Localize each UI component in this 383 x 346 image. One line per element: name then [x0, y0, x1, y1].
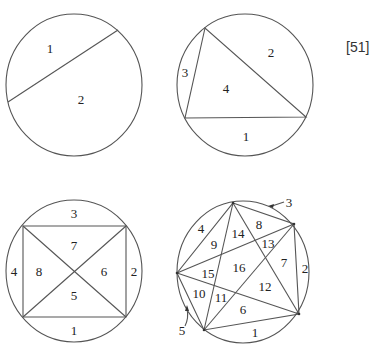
chord: [8, 30, 118, 102]
vertex-dot: [298, 313, 301, 316]
region-label: 4: [11, 264, 18, 279]
region-label: 5: [179, 323, 186, 338]
figure-three-points: 2341: [177, 14, 313, 156]
region-label: 1: [71, 323, 78, 338]
vertex-dot: [176, 272, 179, 275]
region-label: 14: [232, 226, 246, 241]
circle: [6, 14, 142, 156]
vertex-dot: [293, 223, 296, 226]
region-label: 16: [233, 260, 247, 275]
region-label: 12: [259, 279, 272, 294]
region-label: 1: [47, 41, 54, 56]
region-label: 8: [256, 217, 263, 232]
region-label: 1: [252, 325, 259, 340]
reference-number: [51]: [346, 39, 369, 55]
region-label: 4: [223, 81, 230, 96]
region-label: 7: [71, 238, 78, 253]
region-label: 3: [286, 195, 293, 210]
region-label: 6: [101, 264, 108, 279]
region-label: 2: [78, 92, 85, 107]
vertex-dot: [203, 329, 206, 332]
vertex-dot: [232, 202, 235, 205]
region-label: 3: [182, 65, 189, 80]
circle-division-diagram: [51] 12 2341 37486251: [0, 0, 383, 346]
diagonal: [233, 203, 299, 314]
region-label: 9: [211, 237, 218, 252]
region-label: 2: [302, 261, 309, 276]
figure-five-points: 34814913716215121011651: [176, 195, 309, 344]
figure-two-points: 12: [6, 14, 142, 156]
region-label: 15: [202, 266, 215, 281]
region-label: 13: [262, 236, 275, 251]
region-label: 6: [240, 302, 247, 317]
leader-line-3: [272, 202, 284, 206]
region-label: 4: [198, 221, 205, 236]
region-label: 10: [193, 286, 206, 301]
region-label: 8: [36, 264, 43, 279]
region-label: 3: [71, 206, 78, 221]
triangle: [185, 28, 306, 118]
region-label: 1: [243, 129, 250, 144]
figure-four-points: 37486251: [6, 200, 142, 342]
leader-line-5: [185, 309, 188, 326]
region-label: 5: [71, 288, 78, 303]
region-label: 7: [281, 255, 288, 270]
region-label: 2: [268, 45, 275, 60]
region-label: 11: [215, 290, 228, 305]
region-labels: 2341: [182, 45, 275, 144]
diagonal: [204, 224, 294, 330]
region-label: 2: [131, 264, 138, 279]
